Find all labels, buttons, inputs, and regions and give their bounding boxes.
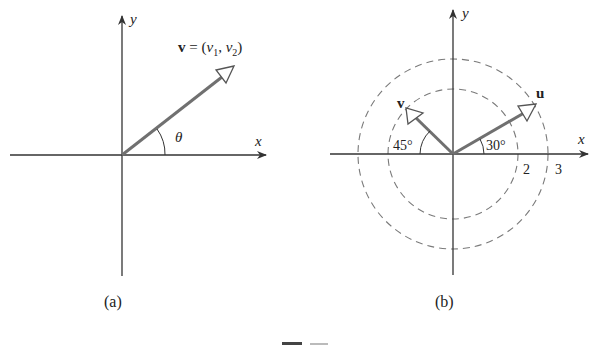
vector-u-arrowhead <box>518 104 536 121</box>
caption-b: (b) <box>435 293 454 311</box>
y-axis-label-a: y <box>128 11 137 27</box>
figure-a <box>10 16 266 276</box>
angle-label-45: 45° <box>393 138 413 153</box>
vector-v-label-b: v <box>397 95 405 111</box>
caption-a: (a) <box>104 293 122 311</box>
angle-arc-45 <box>420 131 430 154</box>
figure-b <box>330 10 588 275</box>
radius-label-3: 3 <box>555 162 562 177</box>
angle-arc-theta <box>157 129 165 155</box>
vector-u-label: u <box>536 85 544 101</box>
figure-canvas: y x θ v = (v1, v2) (a) y x u v 30° 45° 2… <box>0 0 604 345</box>
x-axis-label-a: x <box>254 133 262 149</box>
x-axis-label-b: x <box>577 131 585 147</box>
vector-v-b <box>414 116 453 154</box>
radius-label-2: 2 <box>523 162 530 177</box>
vector-v-equation: v = (v1, v2) <box>178 39 242 58</box>
angle-label-theta: θ <box>175 129 183 145</box>
angle-arc-30 <box>480 139 484 154</box>
angle-label-30: 30° <box>486 138 506 153</box>
vector-v-a <box>122 77 222 155</box>
y-axis-label-b: y <box>460 5 469 21</box>
